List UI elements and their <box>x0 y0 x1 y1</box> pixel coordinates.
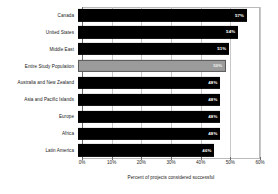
bar-row: United States54% <box>0 24 278 41</box>
x-tick-mark <box>201 157 202 160</box>
bar-value-label: 46% <box>202 148 211 153</box>
x-axis-ticks: 0%10%20%30%40%50%60% <box>82 160 260 170</box>
category-label: Africa <box>0 131 78 136</box>
bar-track: 57% <box>78 7 256 24</box>
category-label: Entire Study Population <box>0 64 78 69</box>
bar-track: 48% <box>78 125 256 142</box>
category-label: United States <box>0 30 78 35</box>
bar-track: 46% <box>78 142 256 159</box>
bar-track: 54% <box>78 24 256 41</box>
category-label: Latin America <box>0 148 78 153</box>
bar-value-label: 54% <box>226 30 235 35</box>
category-label: Middle East <box>0 47 78 52</box>
bar: 48% <box>78 94 220 106</box>
bar-track: 51% <box>78 41 256 58</box>
category-label: Europe <box>0 114 78 119</box>
bar: 54% <box>78 26 238 38</box>
x-tick-label: 60% <box>255 160 264 165</box>
bar-value-label: 48% <box>208 97 217 102</box>
bar-value-label: 48% <box>208 80 217 85</box>
bar-highlight: 50% <box>78 60 226 72</box>
bar-track: 48% <box>78 91 256 108</box>
bar-row: Canada57% <box>0 7 278 24</box>
x-tick-mark <box>230 157 231 160</box>
x-tick-mark <box>112 157 113 160</box>
bar-value-label: 48% <box>208 131 217 136</box>
bar-value-label: 57% <box>235 13 244 18</box>
bar-row: Australia and New Zealand48% <box>0 75 278 92</box>
bar-value-label: 50% <box>213 64 222 69</box>
x-tick-mark <box>171 157 172 160</box>
x-tick-mark <box>82 157 83 160</box>
bar-track: 50% <box>78 58 256 75</box>
bar: 51% <box>78 43 229 55</box>
x-tick-label: 40% <box>196 160 205 165</box>
bar-rows: Canada57%United States54%Middle East51%E… <box>0 7 278 159</box>
x-axis-title: Percent of projects considered successfu… <box>82 175 260 180</box>
x-tick-label: 30% <box>166 160 175 165</box>
category-label: Australia and New Zealand <box>0 80 78 85</box>
x-tick-mark <box>260 157 261 160</box>
bar-track: 48% <box>78 108 256 125</box>
x-tick-mark <box>141 157 142 160</box>
category-label: Canada <box>0 13 78 18</box>
x-tick-label: 50% <box>226 160 235 165</box>
bar: 48% <box>78 111 220 123</box>
bar-row: Africa48% <box>0 125 278 142</box>
bar-track: 48% <box>78 75 256 92</box>
x-tick-label: 20% <box>137 160 146 165</box>
bar-row: Europe48% <box>0 108 278 125</box>
bar-row: Entire Study Population50% <box>0 58 278 75</box>
bar-row: Latin America46% <box>0 142 278 159</box>
x-tick-label: 0% <box>79 160 86 165</box>
bar-row: Middle East51% <box>0 41 278 58</box>
bar-value-label: 48% <box>208 114 217 119</box>
bar: 57% <box>78 9 247 21</box>
bar: 48% <box>78 127 220 139</box>
bar: 48% <box>78 77 220 89</box>
bar: 46% <box>78 144 214 156</box>
bar-chart: Canada57%United States54%Middle East51%E… <box>0 0 278 194</box>
x-tick-label: 10% <box>107 160 116 165</box>
bar-row: Asia and Pacific Islands48% <box>0 91 278 108</box>
bar-value-label: 51% <box>217 47 226 52</box>
category-label: Asia and Pacific Islands <box>0 97 78 102</box>
